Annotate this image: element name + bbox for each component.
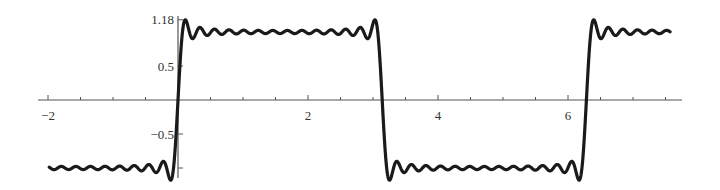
fourier-square-wave-chart: −22461.180.5−0.5 — [0, 0, 720, 190]
x-tick-label: 2 — [305, 108, 312, 123]
x-tick-label: 6 — [565, 108, 572, 123]
y-tick-label: 0.5 — [158, 59, 174, 74]
y-tick-label: −0.5 — [150, 127, 174, 142]
y-tick-label: 1.18 — [151, 12, 174, 27]
x-tick-label: −2 — [41, 108, 55, 123]
x-tick-label: 4 — [435, 108, 442, 123]
